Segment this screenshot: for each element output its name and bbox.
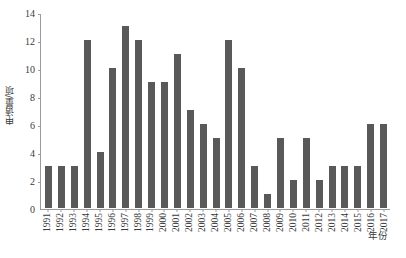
bar [225, 40, 232, 208]
y-axis-tick-mark [38, 42, 41, 43]
x-axis-tick-label: 2005 [224, 213, 234, 232]
y-axis-tick-mark [38, 126, 41, 127]
x-label-slot: 1992 [54, 213, 67, 255]
bar-slot [68, 14, 81, 208]
bar-slot [222, 14, 235, 208]
x-label-slot: 2014 [339, 213, 352, 255]
bar-slot [145, 14, 158, 208]
x-label-slot: 2005 [223, 213, 236, 255]
bar [277, 138, 284, 208]
bar [200, 124, 207, 208]
bar-slot [235, 14, 248, 208]
x-label-slot: 2011 [300, 213, 313, 255]
bar-slot [81, 14, 94, 208]
x-axis-tick-mark [319, 209, 320, 212]
x-axis-tick-mark [100, 209, 101, 212]
bar [316, 180, 323, 208]
bar [135, 40, 142, 208]
bar-slot [377, 14, 390, 208]
y-axis-tick-mark [38, 70, 41, 71]
x-axis-tick-label: 1994 [82, 213, 92, 232]
y-axis-title-text: 申请量/项 [2, 86, 15, 125]
x-axis-tick-mark [112, 209, 113, 212]
x-axis-tick-mark [216, 209, 217, 212]
x-axis-tick-mark [383, 209, 384, 212]
x-label-slot: 2007 [249, 213, 262, 255]
x-axis-tick-mark [267, 209, 268, 212]
y-axis-tick-label: 4 [30, 149, 35, 159]
x-axis-tick-mark [48, 209, 49, 212]
bar [45, 166, 52, 208]
bar-slot [274, 14, 287, 208]
x-axis-tick-label: 2015 [354, 213, 364, 232]
x-label-slot: 2006 [236, 213, 249, 255]
y-axis-tick-label: 8 [30, 93, 35, 103]
x-label-slot: 2002 [184, 213, 197, 255]
x-axis-tick-label: 2014 [341, 213, 351, 232]
x-label-slot: 2008 [261, 213, 274, 255]
x-axis-tick-label: 2010 [289, 213, 299, 232]
x-label-slot: 2000 [158, 213, 171, 255]
bar-slot [106, 14, 119, 208]
x-axis-tick-mark [87, 209, 88, 212]
bar [174, 54, 181, 208]
x-label-slot: 1995 [93, 213, 106, 255]
x-label-slot: 1996 [106, 213, 119, 255]
y-axis-tick-label: 10 [25, 65, 35, 75]
y-axis-tick-label: 14 [25, 9, 35, 19]
x-label-slot: 2013 [326, 213, 339, 255]
x-label-slot: 1999 [145, 213, 158, 255]
x-axis-tick-label: 2013 [328, 213, 338, 232]
x-axis-tick-mark [203, 209, 204, 212]
bar [84, 40, 91, 208]
bar [58, 166, 65, 208]
bar-slot [351, 14, 364, 208]
x-axis-tick-mark [344, 209, 345, 212]
x-label-slot: 2009 [274, 213, 287, 255]
x-axis-tick-mark [177, 209, 178, 212]
bar [97, 152, 104, 208]
x-axis-tick-mark [190, 209, 191, 212]
x-axis-tick-label: 2012 [315, 213, 325, 232]
x-label-slot: 2001 [171, 213, 184, 255]
bar [71, 166, 78, 208]
x-axis-tick-label: 2007 [250, 213, 260, 232]
x-axis-tick-label: 1991 [43, 213, 53, 232]
x-axis-tick-mark [138, 209, 139, 212]
x-axis-tick-mark [151, 209, 152, 212]
bar-slot [326, 14, 339, 208]
bar-slot [261, 14, 274, 208]
y-axis-tick-label: 12 [25, 37, 35, 47]
x-axis-tick-label: 1996 [108, 213, 118, 232]
x-axis-tick-label: 1992 [56, 213, 66, 232]
x-axis-tick-label: 1999 [146, 213, 156, 232]
bar [213, 138, 220, 208]
bar-slot [171, 14, 184, 208]
y-axis-tick-label: 6 [30, 121, 35, 131]
bar [303, 138, 310, 208]
y-axis-tick-mark [38, 14, 41, 15]
x-axis-tick-label: 2009 [276, 213, 286, 232]
x-axis-tick-mark [125, 209, 126, 212]
bar-slot [158, 14, 171, 208]
bar-slot [197, 14, 210, 208]
x-axis-tick-mark [280, 209, 281, 212]
x-label-slot: 1998 [132, 213, 145, 255]
x-axis-tick-mark [370, 209, 371, 212]
bar [341, 166, 348, 208]
y-axis-tick-label: 0 [30, 205, 35, 215]
x-axis-tick-label: 2006 [237, 213, 247, 232]
bar-slot [119, 14, 132, 208]
bar [264, 194, 271, 208]
x-label-slot: 2003 [197, 213, 210, 255]
x-axis-tick-label: 1997 [121, 213, 131, 232]
y-axis-tick-mark [38, 182, 41, 183]
x-axis-tick-labels: 1991199219931994199519961997199819992000… [41, 213, 391, 255]
x-axis-tick-label: 2000 [159, 213, 169, 232]
bar-slot [364, 14, 377, 208]
bar [329, 166, 336, 208]
x-axis-tick-label: 2003 [198, 213, 208, 232]
bar-slot [313, 14, 326, 208]
bar [290, 180, 297, 208]
bar-slot [287, 14, 300, 208]
